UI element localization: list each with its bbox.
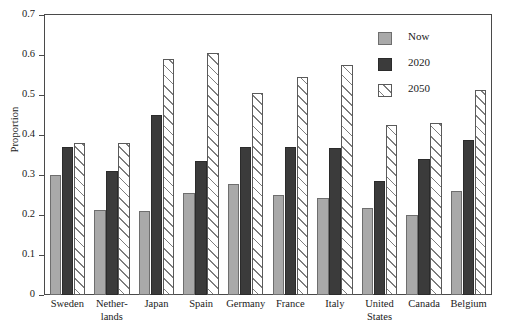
legend-label: Now [408,30,429,42]
y-axis-tick: 0.5 [0,95,44,96]
bar-now [228,184,240,295]
bar-group [313,15,358,295]
y-axis-tick-mark [39,215,44,216]
legend-item: Now [378,30,478,56]
legend-item: 2020 [378,56,478,82]
x-axis-label-line: Spain [179,298,224,311]
x-axis-label-line: France [268,298,313,311]
y-axis-tick-label: 0.6 [22,48,35,59]
y-axis-title: Proportion [9,70,20,190]
x-axis-label-line: Japan [134,298,179,311]
y-axis-tick-label: 0.1 [22,248,35,259]
y-axis-tick-mark [39,255,44,256]
bar-2020 [151,115,163,295]
legend-label: 2020 [408,56,430,68]
x-axis-label-line: States [357,311,402,324]
bar-2020 [374,181,386,295]
x-axis-label-line: lands [90,311,135,324]
x-axis-label: Sweden [45,298,90,311]
legend-item: 2050 [378,82,478,108]
x-axis-labels: SwedenNether-landsJapanSpainGermanyFranc… [45,298,491,333]
y-axis-tick: 0.1 [0,255,44,256]
bar-2050 [341,65,353,295]
bar-now [183,193,195,295]
bar-now [50,175,62,295]
bar-2050 [252,93,264,295]
y-axis-tick: 0.4 [0,135,44,136]
x-axis-label-line: Nether- [90,298,135,311]
x-axis-label: Japan [134,298,179,311]
y-axis-tick: 0.3 [0,175,44,176]
bar-2020 [329,148,341,295]
x-axis-label-line: Sweden [45,298,90,311]
y-axis-tick-mark [39,175,44,176]
y-axis-tick-mark [39,95,44,96]
x-axis-label: Canada [402,298,447,311]
bar-2050 [163,59,175,295]
chart-legend: Now20202050 [378,30,478,108]
bar-2020 [240,147,252,295]
bar-2050 [297,77,309,295]
y-axis-tick-label: 0.4 [22,128,35,139]
y-axis-tick-mark [39,135,44,136]
bar-now [273,195,285,295]
bar-2050 [74,143,86,295]
legend-swatch [378,32,392,45]
legend-swatch [378,84,392,97]
bar-group [134,15,179,295]
bar-2050 [207,53,219,295]
y-axis-tick-label: 0.7 [22,8,35,19]
bar-now [317,198,329,295]
x-axis-label: Nether-lands [90,298,135,323]
bar-now [451,191,463,295]
bar-now [406,215,418,295]
bar-now [94,210,106,295]
bar-2020 [62,147,74,295]
y-axis-tick-mark [39,15,44,16]
y-axis-tick: 0.7 [0,15,44,16]
x-axis-label-line: Italy [313,298,358,311]
y-axis-tick-mark [39,295,44,296]
x-axis-label: Spain [179,298,224,311]
y-axis-tick: 0.2 [0,215,44,216]
bar-group [268,15,313,295]
bar-group [179,15,224,295]
y-axis-tick-label: 0.3 [22,168,35,179]
bar-2020 [195,161,207,295]
y-axis-tick: 0.6 [0,55,44,56]
bar-2020 [463,140,475,295]
bar-2050 [430,123,442,295]
bar-group [90,15,135,295]
legend-label: 2050 [408,82,430,94]
x-axis-label-line: United [357,298,402,311]
bar-2050 [475,90,487,295]
y-axis-tick-label: 0 [30,288,35,299]
y-axis-tick-label: 0.5 [22,88,35,99]
legend-swatch [378,58,392,71]
bar-2020 [106,171,118,295]
x-axis-label: Italy [313,298,358,311]
x-axis-label: Belgium [446,298,491,311]
y-axis-tick-label: 0.2 [22,208,35,219]
x-axis-label: Germany [223,298,268,311]
x-axis-label: UnitedStates [357,298,402,323]
y-axis-tick-mark [39,55,44,56]
bar-now [139,211,151,295]
bar-2020 [285,147,297,295]
x-axis-label: France [268,298,313,311]
y-axis-tick: 0 [0,295,44,296]
x-axis-label-line: Germany [223,298,268,311]
bar-2020 [418,159,430,295]
bar-chart: Proportion 00.10.20.30.40.50.60.7 Sweden… [0,0,506,333]
x-axis-label-line: Belgium [446,298,491,311]
bar-group [223,15,268,295]
bar-2050 [118,143,130,295]
bar-group [45,15,90,295]
bar-2050 [386,125,398,295]
x-axis-label-line: Canada [402,298,447,311]
bar-now [362,208,374,295]
